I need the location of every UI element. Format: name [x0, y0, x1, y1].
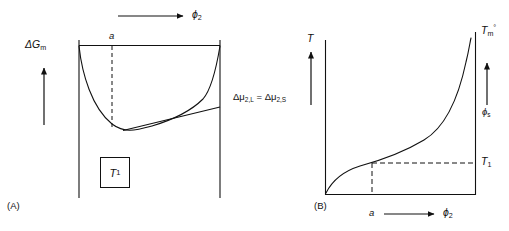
panel-b-melting-point-label: Tm°: [481, 24, 496, 38]
panel-b-x-axis-label: ϕ2: [443, 207, 453, 220]
figure-root: ΔGm ϕ2 a T1 Δμ2,L = Δμ2,S (A) T Tm° ϕs T…: [0, 0, 509, 231]
panel-b-temperature-subscript: 1: [487, 161, 491, 169]
panel-a-x-axis-subscript: 2: [198, 14, 202, 22]
panel-a-temperature-box: T1: [100, 157, 130, 188]
panel-b-composition-marker: a: [369, 208, 374, 218]
solid-fraction-subscript: s: [487, 111, 490, 118]
mu-solid-subscript: 2,S: [276, 96, 286, 103]
panel-a-temperature-subscript: 1: [116, 168, 120, 177]
panel-b-solid-fraction-label: ϕs: [482, 107, 491, 118]
mu-liquid-symbol: Δμ: [233, 91, 245, 102]
melting-point-superscript: °: [493, 23, 496, 32]
common-tangent-line: [123, 107, 220, 131]
liquidus-curve: [326, 38, 471, 193]
panel-a-group: [44, 16, 220, 198]
panel-a-x-axis-label: ϕ2: [192, 9, 202, 22]
panel-a-tag: (A): [7, 201, 20, 211]
panel-b-temperature-label: T1: [481, 156, 491, 169]
panel-a-y-axis-label: ΔGm: [25, 39, 46, 52]
mu-liquid-subscript: 2,L: [245, 96, 254, 103]
panel-a-composition-marker: a: [109, 31, 114, 41]
panel-b-tag: (B): [314, 201, 327, 211]
equality-operator: =: [254, 91, 265, 102]
free-energy-curve: [79, 46, 220, 130]
panel-b-group: [311, 32, 487, 214]
panel-a-y-axis-subscript: m: [40, 44, 46, 52]
panel-b-y-axis-label: T: [307, 33, 313, 44]
mu-solid-symbol: Δμ: [265, 91, 277, 102]
panel-a-temperature-symbol: T: [110, 167, 117, 179]
panel-b-x-axis-subscript: 2: [449, 212, 453, 220]
figure-canvas: [0, 0, 509, 231]
chemical-potential-equality-note: Δμ2,L = Δμ2,S: [233, 92, 286, 103]
panel-a-y-axis-symbol: ΔG: [25, 38, 40, 50]
